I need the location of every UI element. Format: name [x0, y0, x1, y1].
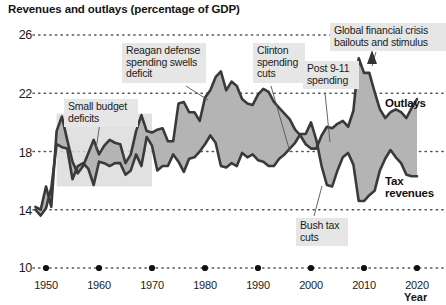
- callout-reagan-defense: Reagan defense spending swells deficit: [122, 43, 206, 83]
- callout-global-financial-crisis: Global financial crisis bailouts and sti…: [330, 23, 446, 51]
- chart-container: Revenues and outlays (percentage of GDP)…: [0, 0, 446, 305]
- x-axis-label: Year: [404, 291, 427, 303]
- y-tick-26: 26: [8, 28, 32, 42]
- callout-bush-tax-cuts: Bush tax cuts: [296, 218, 348, 246]
- callout-line: Small budget: [68, 100, 127, 112]
- x-tick-2010: 2010: [344, 279, 384, 291]
- y-tick-18: 18: [8, 146, 32, 160]
- callout-line: bailouts and stimulus: [334, 36, 428, 48]
- callout-line: deficits: [68, 112, 99, 124]
- callout-line: Reagan defense: [126, 44, 200, 56]
- x-tick-1980: 1980: [185, 279, 225, 291]
- series-label-outlays: Outlays: [385, 97, 426, 109]
- callout-line: Clinton: [257, 44, 288, 56]
- callout-line: Global financial crisis: [334, 24, 428, 36]
- callout-small-budget-deficits: Small budget deficits: [64, 99, 138, 127]
- x-tick-2020: 2020: [397, 279, 437, 291]
- callout-line: spending swells: [126, 56, 197, 68]
- x-tick-1960: 1960: [79, 279, 119, 291]
- callout-line: Post 9-11: [307, 62, 349, 74]
- tax-revenues-line-2: revenues: [385, 187, 434, 199]
- callout-post-911-spending: Post 9-11 spending: [303, 61, 359, 89]
- x-tick-2000: 2000: [291, 279, 331, 291]
- callout-line: cuts: [257, 67, 275, 79]
- callout-clinton-spending-cuts: Clinton spending cuts: [253, 43, 305, 83]
- x-tick-1990: 1990: [238, 279, 278, 291]
- callout-line: deficit: [126, 67, 152, 79]
- y-tick-14: 14: [8, 204, 32, 218]
- callout-line: spending: [307, 74, 348, 86]
- x-tick-1950: 1950: [26, 279, 66, 291]
- callout-line: spending: [257, 56, 298, 68]
- x-axis-tick-dots: [43, 265, 420, 271]
- series-label-tax-revenues: Tax revenues: [385, 175, 434, 199]
- callout-line: cuts: [300, 231, 318, 243]
- callout-line: Bush tax: [300, 219, 339, 231]
- y-tick-10: 10: [8, 261, 32, 275]
- x-tick-1970: 1970: [132, 279, 172, 291]
- tax-revenues-line-1: Tax: [385, 175, 403, 187]
- y-tick-22: 22: [8, 87, 32, 101]
